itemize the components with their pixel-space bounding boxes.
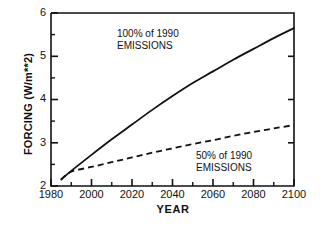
annotation-line-2: EMISSIONS [117, 40, 179, 52]
annotation-line-2: EMISSIONS [196, 162, 252, 174]
annotation-100-percent: 100% of 1990 EMISSIONS [117, 28, 179, 52]
annotation-line-1: 100% of 1990 [117, 28, 179, 40]
x-axis-title: YEAR [51, 203, 295, 215]
annotation-50-percent: 50% of 1990 EMISSIONS [196, 150, 252, 174]
annotation-line-1: 50% of 1990 [196, 150, 252, 162]
x-tick-label: 2100 [264, 188, 322, 200]
forcing-chart-figure: FORCING (W/m**2) 6 5 4 3 2 1980 2000 202… [0, 0, 322, 232]
